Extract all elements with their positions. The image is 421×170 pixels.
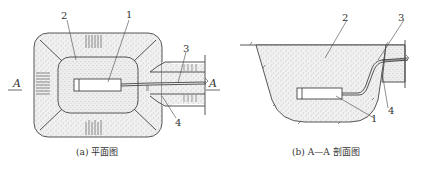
section-trench bbox=[382, 45, 405, 82]
plan-view bbox=[8, 20, 220, 137]
section-electrode bbox=[297, 88, 342, 99]
section-callout-3: 3 bbox=[398, 12, 404, 23]
diagram-stage: 1 2 3 4 A A 1 2 bbox=[0, 0, 421, 170]
section-view bbox=[240, 20, 409, 124]
section-callout-2: 2 bbox=[342, 12, 348, 23]
plan-view-caption: (a) 平面图 bbox=[76, 145, 118, 158]
plan-electrode bbox=[74, 79, 121, 91]
section-callout-1: 1 bbox=[371, 113, 377, 124]
plan-callout-1: 1 bbox=[126, 9, 132, 20]
section-view-caption: (b) A—A 剖面图 bbox=[292, 145, 360, 158]
section-marker-right: A bbox=[208, 77, 217, 90]
plan-callout-2: 2 bbox=[61, 10, 67, 21]
section-callout-4: 4 bbox=[388, 105, 394, 116]
plan-callout-3: 3 bbox=[183, 43, 189, 54]
section-marker-left: A bbox=[12, 77, 21, 90]
plan-callout-4: 4 bbox=[175, 117, 181, 128]
